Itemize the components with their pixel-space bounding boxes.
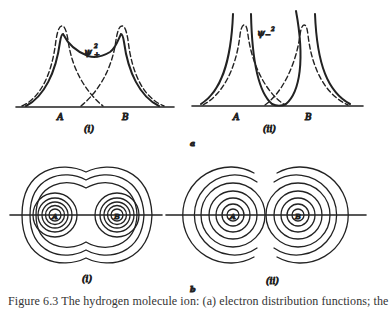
subfigure-label-b-ii: (ii) bbox=[266, 276, 279, 286]
psi-minus-squared-label: ψ bbox=[257, 27, 265, 38]
nucleus-label-a: A bbox=[232, 112, 240, 122]
figure-caption: Figure 6.3 The hydrogen molecule ion: (a… bbox=[8, 294, 380, 309]
psi-plus-subscript: + bbox=[94, 51, 100, 59]
panel-b-ii-contours bbox=[166, 167, 366, 263]
psi-plus-superscript: 2 bbox=[93, 42, 98, 49]
panel-label-a: a bbox=[190, 138, 195, 148]
psi-plus-squared-label: ψ bbox=[84, 46, 92, 57]
nucleus-label-b: B bbox=[304, 112, 312, 122]
panel-label-b: b bbox=[190, 284, 196, 294]
nucleus-label-b: B bbox=[294, 212, 301, 221]
subfigure-label-b-i: (i) bbox=[82, 274, 92, 284]
nucleus-label-a: A bbox=[56, 112, 64, 122]
subfigure-label-a-i: (i) bbox=[84, 124, 94, 134]
atomic-density-a-dashed bbox=[203, 25, 285, 105]
psi-minus-subscript: − bbox=[265, 31, 271, 39]
nucleus-label-a: A bbox=[229, 212, 236, 221]
panel-a-ii-plot bbox=[192, 11, 363, 106]
psi-minus-squared-center bbox=[251, 11, 301, 106]
atomic-density-a-dashed bbox=[22, 26, 103, 106]
psi-minus-superscript: 2 bbox=[270, 25, 275, 32]
psi-minus-squared-right-outer bbox=[315, 14, 350, 104]
nucleus-label-b: B bbox=[121, 112, 129, 122]
psi-minus-squared-left-outer bbox=[201, 14, 233, 104]
nucleus-label-a: A bbox=[51, 212, 58, 221]
subfigure-label-a-ii: (ii) bbox=[263, 124, 276, 134]
panel-a-i-plot bbox=[16, 26, 174, 107]
panel-b-i-contours bbox=[10, 167, 162, 263]
nucleus-label-b: B bbox=[113, 212, 120, 221]
